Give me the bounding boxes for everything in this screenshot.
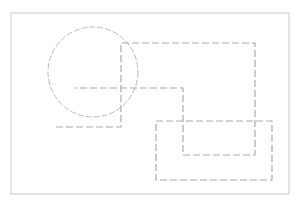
- frame-border: [11, 13, 289, 194]
- dashed-circle: [48, 27, 138, 117]
- diagram-canvas: [0, 0, 298, 201]
